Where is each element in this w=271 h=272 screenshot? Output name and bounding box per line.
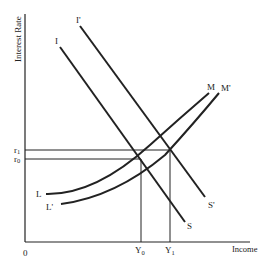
lm-curve-label-L: L	[36, 189, 42, 199]
is-curve-label-S: S	[187, 221, 192, 231]
lm-prime-label-M: M'	[221, 83, 231, 93]
origin-label: 0	[23, 248, 28, 258]
x-axis-label: Income	[232, 244, 258, 254]
lm-curve	[46, 93, 209, 194]
Y0-label: Y0	[135, 245, 145, 256]
is-prime-label-I: I'	[76, 15, 81, 25]
lm-prime-label-L: L'	[46, 202, 53, 212]
is-curve	[60, 47, 185, 222]
lm-curve-label-M: M	[207, 82, 215, 92]
is-prime-label-S: S'	[208, 200, 215, 210]
Y1-label: Y1	[165, 245, 175, 256]
r0-label: r0	[14, 154, 20, 164]
y-axis-label: Interest Rate	[13, 16, 23, 62]
is-lm-diagram: Interest Rate 0 Income r1 r0 Y0 Y1 I S I…	[0, 0, 271, 272]
is-curve-label-I: I	[55, 36, 58, 46]
